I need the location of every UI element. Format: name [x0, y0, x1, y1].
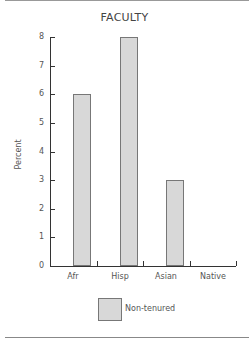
y-tick	[50, 209, 55, 210]
y-tick-label: 1	[30, 232, 44, 241]
x-tick-label: Native	[190, 272, 236, 281]
y-axis-title: Percent	[14, 135, 23, 175]
chart-title: FACULTY	[0, 11, 249, 24]
x-tick	[97, 261, 98, 266]
x-tick-label: Afr	[50, 272, 96, 281]
y-tick	[50, 152, 55, 153]
y-tick	[50, 66, 55, 67]
y-tick-label: 6	[30, 89, 44, 98]
bar-hisp	[120, 37, 138, 266]
y-tick-label: 0	[30, 261, 44, 270]
x-tick-label: Hisp	[97, 272, 143, 281]
bottom-rule	[5, 337, 249, 338]
x-tick	[190, 261, 191, 266]
y-tick-label: 8	[30, 32, 44, 41]
legend-swatch-non-tenured	[98, 298, 122, 321]
top-rule	[5, 0, 249, 1]
y-tick-label: 3	[30, 175, 44, 184]
y-tick-label: 5	[30, 118, 44, 127]
y-tick	[50, 180, 55, 181]
y-tick-label: 2	[30, 204, 44, 213]
y-tick-label: 7	[30, 61, 44, 70]
legend-label-non-tenured: Non-tenured	[125, 304, 175, 313]
x-axis	[50, 266, 236, 267]
x-tick	[143, 261, 144, 266]
y-tick-label: 4	[30, 147, 44, 156]
x-tick	[236, 261, 237, 266]
y-tick	[50, 237, 55, 238]
y-tick	[50, 94, 55, 95]
bar-asian	[166, 180, 184, 266]
y-tick	[50, 123, 55, 124]
bar-afr	[73, 94, 91, 266]
x-tick-label: Asian	[143, 272, 189, 281]
y-tick	[50, 37, 55, 38]
